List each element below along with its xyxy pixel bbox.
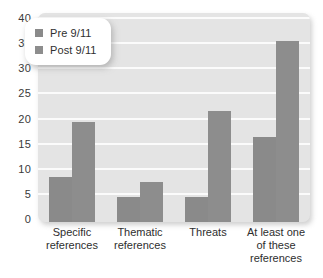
- bar: [253, 137, 276, 222]
- y-axis-tick-label: 15: [18, 138, 31, 150]
- x-axis-category-label: At least oneof thesereferences: [242, 226, 310, 265]
- bar: [185, 197, 208, 222]
- legend-item[interactable]: Post 9/11: [35, 44, 97, 56]
- x-axis-category-label-line: references: [107, 239, 173, 252]
- x-axis-category-label: Thematicreferences: [106, 226, 174, 265]
- bar: [117, 197, 140, 222]
- y-axis-tick-label: 25: [18, 87, 31, 99]
- bar: [276, 41, 299, 222]
- y-axis-tick-label: 20: [18, 113, 31, 125]
- legend-swatch-icon: [35, 46, 43, 54]
- legend-item[interactable]: Pre 9/11: [35, 27, 97, 39]
- bar: [49, 177, 72, 222]
- y-axis-tick-label: 5: [25, 188, 31, 200]
- legend-label: Pre 9/11: [50, 27, 92, 39]
- x-axis: SpecificreferencesThematicreferencesThre…: [38, 226, 310, 265]
- bar-group: [242, 13, 310, 222]
- bar-group: [174, 13, 242, 222]
- bar: [72, 122, 95, 223]
- y-axis-tick-label: 10: [18, 163, 31, 175]
- legend-swatch-icon: [35, 29, 43, 37]
- x-axis-category-label-line: of these: [243, 239, 309, 252]
- bar-group: [106, 13, 174, 222]
- bar-chart: 4035302520151050 Pre 9/11Post 9/11 Speci…: [0, 0, 323, 278]
- y-axis-tick-label: 0: [25, 213, 31, 225]
- x-axis-category-label: Threats: [174, 226, 242, 265]
- y-axis-tick-label: 30: [18, 62, 31, 74]
- x-axis-category-label-line: references: [39, 239, 105, 252]
- x-axis-category-label-line: Thematic: [107, 226, 173, 239]
- bar: [140, 182, 163, 222]
- x-axis-category-label-line: Specific: [39, 226, 105, 239]
- x-axis-category-label-line: references: [243, 252, 309, 265]
- x-axis-category-label-line: At least one: [243, 226, 309, 239]
- legend-label: Post 9/11: [50, 44, 97, 56]
- x-axis-category-label-line: Threats: [175, 226, 241, 239]
- bar: [208, 111, 231, 222]
- chart-legend: Pre 9/11Post 9/11: [25, 18, 111, 65]
- x-axis-category-label: Specificreferences: [38, 226, 106, 265]
